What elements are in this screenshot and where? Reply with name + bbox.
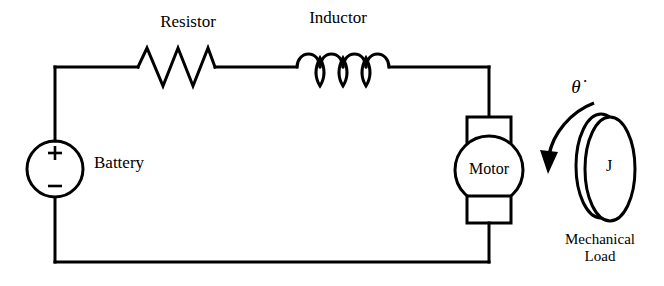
- mechanical-load-label-line-1: Mechanical: [541, 231, 659, 248]
- motor-label: Motor: [456, 160, 522, 178]
- angular-velocity-label: θ̇: [562, 76, 590, 97]
- inertia-symbol-label: J: [596, 157, 622, 175]
- mechanical-load-label-line-2: Load: [541, 248, 659, 265]
- rotation-arrow-head-icon: [540, 150, 558, 174]
- circuit-diagram: Resistor Inductor Battery Motor J θ̇ Mec…: [0, 0, 664, 286]
- motor-terminal-bottom: [467, 196, 511, 223]
- resistor-label: Resistor: [140, 12, 236, 31]
- resistor-zigzag-symbol: [138, 48, 215, 86]
- mechanical-load-label: Mechanical Load: [541, 231, 659, 265]
- battery-label: Battery: [94, 153, 144, 172]
- inductor-label: Inductor: [290, 8, 386, 27]
